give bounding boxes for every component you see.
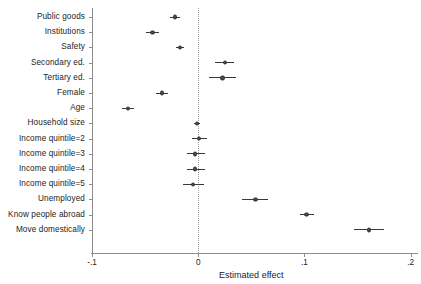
point-estimate-marker — [223, 60, 227, 64]
x-axis-tick — [92, 254, 93, 257]
estimate-row — [0, 164, 421, 175]
point-estimate-marker — [193, 152, 197, 156]
point-estimate-marker — [191, 182, 195, 186]
estimate-row — [0, 224, 421, 235]
x-axis-tick — [304, 254, 305, 257]
estimate-row — [0, 118, 421, 129]
x-axis-tick-label: 0 — [196, 258, 201, 267]
point-estimate-marker — [126, 106, 130, 110]
estimate-row — [0, 179, 421, 190]
point-estimate-marker — [197, 136, 201, 140]
point-estimate-marker — [173, 15, 177, 19]
point-estimate-marker — [193, 167, 197, 171]
x-axis-tick-label: .1 — [301, 258, 308, 267]
coefficient-plot: Public goodsInstitutionsSafetySecondary … — [0, 0, 421, 284]
point-estimate-marker — [160, 91, 164, 95]
x-axis-tick — [411, 254, 412, 257]
estimate-row — [0, 57, 421, 68]
point-estimate-marker — [195, 121, 199, 125]
estimate-row — [0, 72, 421, 83]
estimate-row — [0, 148, 421, 159]
point-estimate-marker — [253, 197, 257, 201]
x-axis-line — [91, 253, 418, 254]
x-axis-tick-label: .2 — [407, 258, 414, 267]
estimate-row — [0, 103, 421, 114]
x-axis-tick — [198, 254, 199, 257]
point-estimate-marker — [367, 228, 371, 232]
point-estimate-marker — [150, 30, 154, 34]
estimate-row — [0, 88, 421, 99]
estimate-row — [0, 12, 421, 23]
estimate-row — [0, 194, 421, 205]
x-axis-tick-label: -.1 — [87, 258, 97, 267]
point-estimate-marker — [178, 45, 182, 49]
point-estimate-marker — [220, 76, 224, 80]
x-axis-title: Estimated effect — [219, 270, 283, 280]
estimate-row — [0, 209, 421, 220]
estimate-row — [0, 42, 421, 53]
estimate-row — [0, 133, 421, 144]
estimate-row — [0, 27, 421, 38]
point-estimate-marker — [304, 212, 308, 216]
